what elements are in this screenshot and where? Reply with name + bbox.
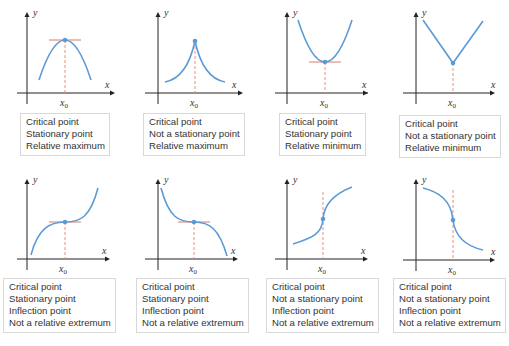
svg-text:x: x — [231, 79, 237, 90]
svg-text:x: x — [104, 79, 110, 90]
caption-box: Critical point Not a stationary point Re… — [399, 115, 501, 158]
svg-text:x0: x0 — [447, 97, 456, 110]
caption-box: Critical point Not a stationary point In… — [266, 278, 379, 333]
svg-text:x0: x0 — [59, 97, 68, 110]
caption-box: Critical point Stationary point Inflecti… — [136, 278, 249, 333]
svg-text:x0: x0 — [58, 263, 67, 276]
panel-inflection-stationary-increasing: y x x0 Critical point Stationary point I… — [0, 170, 125, 346]
svg-text:x: x — [490, 79, 496, 90]
panel-inflection-vertical-decreasing: y x x0 Critical point Not a stationary p… — [375, 170, 509, 346]
svg-text:y: y — [421, 7, 427, 18]
caption-box: Critical point Stationary point Relative… — [20, 113, 110, 156]
svg-text:y: y — [32, 174, 38, 185]
svg-text:x0: x0 — [319, 97, 328, 110]
panel-relative-min-corner: y x x0 Critical point Not a stationary p… — [375, 0, 509, 170]
svg-text:x0: x0 — [188, 263, 197, 276]
svg-text:x0: x0 — [317, 263, 326, 276]
panel-relative-max-stationary: y x x0 Critical point Stationary point R… — [0, 0, 125, 170]
panel-inflection-stationary-decreasing: y x x0 Critical point Stationary point I… — [125, 170, 250, 346]
svg-text:x: x — [490, 246, 496, 257]
svg-text:x: x — [230, 245, 236, 256]
caption-box: Critical point Not a stationary point Re… — [143, 113, 245, 156]
svg-text:x: x — [361, 79, 367, 90]
svg-text:y: y — [163, 7, 169, 18]
svg-text:y: y — [32, 7, 38, 18]
panel-relative-max-cusp: y x x0 Critical point Not a stationary p… — [125, 0, 250, 170]
svg-text:y: y — [292, 7, 298, 18]
svg-text:y: y — [163, 174, 169, 185]
panel-relative-min-stationary: y x x0 Critical point Stationary point R… — [250, 0, 375, 170]
caption-box: Critical point Stationary point Relative… — [279, 113, 366, 156]
svg-text:x0: x0 — [189, 97, 198, 110]
svg-text:x0: x0 — [447, 264, 456, 277]
svg-text:y: y — [292, 174, 298, 185]
caption-box: Critical point Stationary point Inflecti… — [3, 278, 116, 333]
svg-text:x: x — [360, 245, 366, 256]
caption-box: Critical point Not a stationary point In… — [393, 278, 506, 333]
panel-inflection-vertical-increasing: y x x0 Critical point Not a stationary p… — [250, 170, 375, 346]
svg-text:x: x — [101, 245, 107, 256]
svg-text:y: y — [421, 174, 427, 185]
